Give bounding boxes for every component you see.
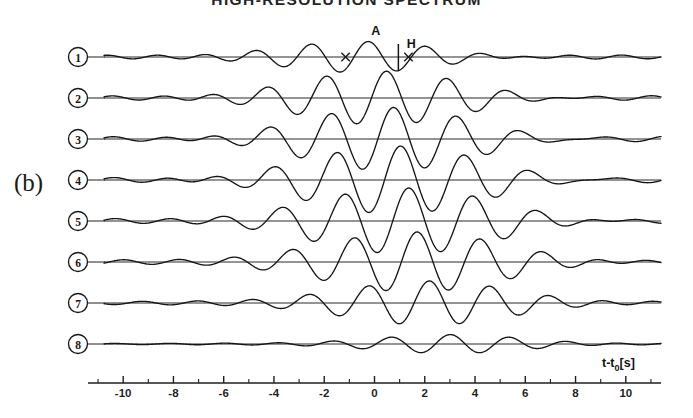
waveform-plot: 12345678 AH -10-8-6-4-20246810t-t0[s] (0, 0, 693, 418)
trace-number-label: 8 (75, 339, 81, 351)
axis-tick-label: -10 (115, 387, 132, 399)
axis-title: t-t0[s] (602, 356, 635, 373)
axis-tick-label: 6 (522, 387, 528, 399)
trace-waveforms-group (104, 42, 661, 353)
trace-number-labels-group: 12345678 (69, 48, 106, 354)
trace-waveform (104, 188, 661, 253)
half-period-label: H (407, 37, 416, 51)
figure-root: HIGH-RESOLUTION SPECTRUM (b) 12345678 AH… (0, 0, 693, 418)
axis-tick-label: -4 (269, 387, 280, 399)
axis-tick-label: 2 (422, 387, 428, 399)
axis-tick-label: 8 (572, 387, 579, 399)
trace-waveform (104, 232, 661, 291)
axis-tick-label: -6 (219, 387, 229, 399)
trace-waveform (104, 107, 661, 169)
trace-waveform (104, 146, 661, 212)
trace-number-label: 1 (75, 52, 81, 64)
annotations-group: AH (341, 24, 415, 70)
axis-tick-label: 0 (371, 387, 377, 399)
time-axis-group: -10-8-6-4-20246810t-t0[s] (88, 356, 661, 399)
axis-tick-label: -8 (168, 387, 179, 399)
axis-tick-label: -2 (319, 387, 329, 399)
trace-number-label: 2 (75, 93, 81, 105)
trace-number-label: 6 (75, 257, 81, 269)
amplitude-label: A (371, 24, 380, 38)
axis-tick-label: 10 (619, 387, 632, 399)
trace-number-label: 4 (75, 175, 81, 187)
trace-waveform (104, 281, 661, 324)
trace-number-label: 7 (75, 298, 81, 310)
trace-number-label: 5 (75, 216, 81, 228)
trace-number-label: 3 (75, 134, 81, 146)
axis-tick-label: 4 (472, 387, 479, 399)
